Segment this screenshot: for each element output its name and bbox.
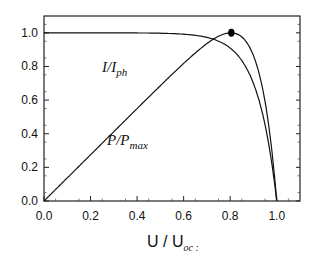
- y-tick-label: 0.0: [21, 194, 38, 208]
- label-i-over-iph: I/Iph: [101, 59, 128, 78]
- label-p-over-pmax: P/Pmax: [106, 132, 148, 151]
- x-tick-label: 1.0: [268, 209, 285, 223]
- max-power-point-marker: [228, 29, 234, 37]
- iv-power-chart: 0.00.20.40.60.81.00.00.20.40.60.81.0I/Ip…: [0, 0, 314, 263]
- curve-p-over-pmax: [44, 33, 277, 201]
- y-tick-label: 0.6: [21, 93, 38, 107]
- x-tick-label: 0.6: [175, 209, 192, 223]
- x-tick-label: 0.4: [129, 209, 146, 223]
- x-axis-label: U / Uoc :: [147, 233, 199, 253]
- y-tick-label: 1.0: [21, 26, 38, 40]
- x-tick-label: 0.8: [222, 209, 239, 223]
- y-tick-label: 0.2: [21, 160, 38, 174]
- curve-i-over-iph: [44, 33, 277, 201]
- x-tick-label: 0.0: [36, 209, 53, 223]
- y-tick-label: 0.8: [21, 59, 38, 73]
- y-tick-label: 0.4: [21, 127, 38, 141]
- x-tick-label: 0.2: [82, 209, 99, 223]
